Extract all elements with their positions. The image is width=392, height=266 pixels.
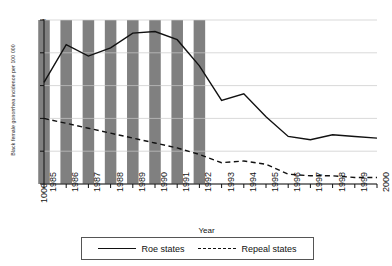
chart-figure: Black female gonorrhea incidence per 100… xyxy=(0,0,392,266)
legend-line-dashed-icon xyxy=(198,248,236,249)
legend-label-roe-states: Roe states xyxy=(141,244,184,254)
legend-label-repeal-states: Repeal states xyxy=(241,244,296,254)
x-axis-title: Year xyxy=(199,226,215,235)
legend-item-roe-states: Roe states xyxy=(98,244,184,254)
plot-area-svg xyxy=(0,0,392,266)
shaded-year-bands xyxy=(38,20,205,184)
chart-legend: Roe states Repeal states xyxy=(81,237,314,260)
legend-line-solid-icon xyxy=(98,248,136,249)
legend-item-repeal-states: Repeal states xyxy=(198,244,296,254)
